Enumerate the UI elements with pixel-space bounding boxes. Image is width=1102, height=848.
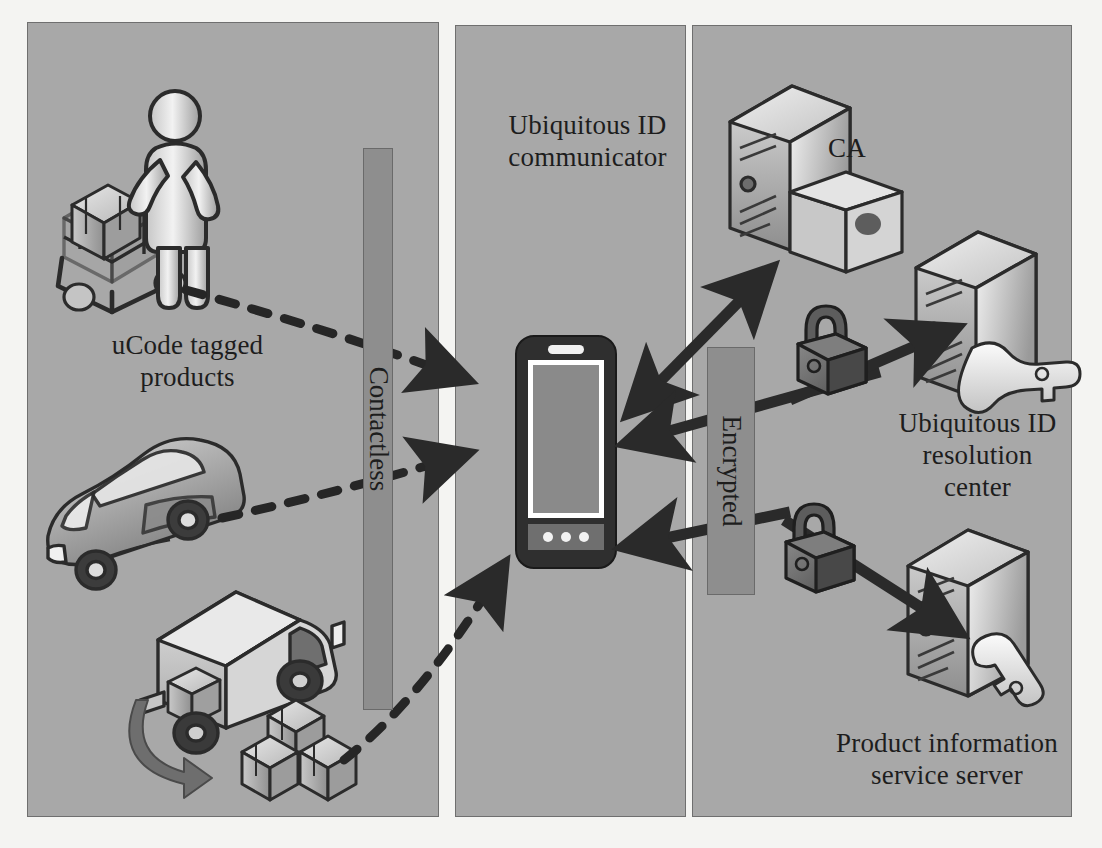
label-product-information-service-server: Product information service server — [802, 728, 1092, 792]
label-uid-communicator-line-1: Ubiquitous ID — [470, 110, 705, 142]
channel-bar-encrypted-label: Encrypted — [716, 416, 747, 527]
label-uid-communicator-line-2: communicator — [470, 142, 705, 174]
label-ucode-tagged-products: uCode tagged products — [55, 330, 320, 394]
label-ucode-line-1: uCode tagged — [55, 330, 320, 362]
label-uid-resolution-line-3: center — [855, 472, 1100, 504]
channel-bar-contactless-label: Contactless — [363, 367, 394, 491]
label-ca: CA — [828, 133, 908, 165]
label-product-info-line-2: service server — [802, 760, 1092, 792]
label-ubiquitous-id-communicator: Ubiquitous ID communicator — [470, 110, 705, 174]
label-ubiquitous-id-resolution-center: Ubiquitous ID resolution center — [855, 408, 1100, 504]
diagram-canvas: Contactless Encrypted uCode tagged produ… — [0, 0, 1102, 848]
label-uid-resolution-line-1: Ubiquitous ID — [855, 408, 1100, 440]
channel-bar-encrypted: Encrypted — [707, 347, 755, 595]
label-ucode-line-2: products — [55, 362, 320, 394]
label-uid-resolution-line-2: resolution — [855, 440, 1100, 472]
channel-bar-contactless: Contactless — [363, 148, 393, 710]
label-product-info-line-1: Product information — [802, 728, 1092, 760]
